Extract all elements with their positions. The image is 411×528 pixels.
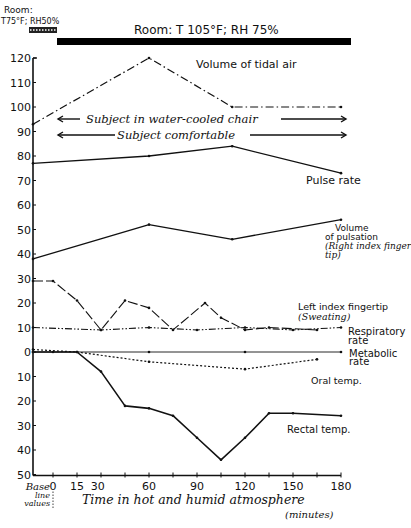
data-point [32,280,35,283]
data-point [316,358,319,361]
y-tick-label: 50 [17,224,31,237]
baseline-room-conditions: T75°F; RH50% [0,17,60,26]
baseline-room-label: Room: [4,5,33,15]
y-tick-label: 0 [24,346,31,359]
y-tick-label: 110 [10,77,31,90]
water-cooled-annotation: Subject in water-cooled chair [86,112,259,126]
data-point [148,155,151,158]
data-point [148,223,151,226]
x-tick-label: 0 [50,480,57,493]
y-tick-label: 20 [17,395,31,408]
data-point [340,106,343,109]
y-tick-label: 90 [17,126,31,139]
data-point [196,329,199,332]
series-label-8: Rectal temp. [287,424,351,435]
series-label-3: tip) [325,250,341,260]
y-tick-label: 30 [17,420,31,433]
x-base-label: values [24,499,50,508]
data-point [124,405,127,408]
data-point [292,329,295,332]
series-label-1: Volume of tidal air [196,58,297,71]
data-point [52,280,55,283]
y-tick-label: 100 [10,101,31,114]
data-point [32,258,35,261]
y-tick-label: 80 [17,150,31,163]
data-point [124,299,127,302]
data-point [340,326,343,329]
data-point [204,302,207,305]
data-point [32,326,35,329]
data-point [231,106,234,109]
data-point [220,316,223,319]
y-tick-label: 30 [17,273,31,286]
y-tick-label: 40 [17,248,31,261]
conditions-header: Room: T75°F; RH50% Room: T 105°F; RH 75% [0,5,351,45]
y-tick-label: 40 [17,444,31,457]
data-point [148,307,151,310]
data-point [340,414,343,417]
data-point [244,326,247,329]
x-tick-label: 180 [331,480,352,493]
data-point [32,162,35,165]
y-tick-label: 120 [10,52,31,65]
data-point [148,351,151,354]
data-point [100,329,103,332]
exposure-room-conditions: Room: T 105°F; RH 75% [134,23,279,37]
data-point [340,218,343,221]
data-point [148,326,151,329]
series-line-2 [33,146,341,173]
series-line-8 [33,352,341,460]
series-label-6: rate [349,356,369,367]
data-point [100,370,103,373]
data-point [244,368,247,371]
y-tick-label: 70 [17,175,31,188]
data-point [172,414,175,417]
data-point [76,351,79,354]
data-point [244,351,247,354]
y-tick-label: 20 [17,297,31,310]
data-point [148,407,151,410]
data-point [76,299,79,302]
series-line-4 [33,281,317,330]
data-point [268,412,271,415]
data-point [148,361,151,364]
data-point [244,329,247,332]
series-line-3 [33,220,341,259]
data-point [292,412,295,415]
data-point [340,351,343,354]
data-point [231,238,234,241]
data-point [32,348,35,351]
series-label-2: Pulse rate [306,174,361,187]
data-point [231,145,234,148]
data-point [244,436,247,439]
exposure-period-bar [57,38,351,45]
annotations-group: Subject in water-cooled chairSubject com… [58,112,346,142]
data-point [220,459,223,462]
data-point [196,436,199,439]
x-axis-unit: (minutes) [285,509,334,520]
comfortable-annotation: Subject comfortable [117,128,235,142]
physiological-response-chart: Room: T75°F; RH50% Room: T 105°F; RH 75%… [0,0,411,528]
data-point [148,57,151,60]
y-tick-label: 60 [17,199,31,212]
series-label-5: rate [348,335,368,346]
y-tick-label: 10 [17,322,31,335]
data-point [32,123,35,126]
series-label-7: Oral temp. [311,375,362,386]
data-point [32,351,35,354]
series-label-4: (Sweating) [298,311,351,322]
y-tick-label: 10 [17,371,31,384]
x-axis-title: Time in hot and humid atmosphere [82,492,305,507]
